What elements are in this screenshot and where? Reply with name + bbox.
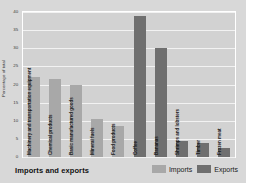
legend-label: Imports (169, 166, 192, 173)
bar-category-label: Mineral fuels (90, 128, 95, 155)
y-tick-label: 30 (13, 46, 18, 50)
legend-swatch (152, 165, 166, 173)
y-tick-label: 0 (16, 155, 18, 159)
chart-legend: ImportsExports (152, 165, 238, 173)
legend-label: Exports (214, 166, 238, 173)
bar-slot: Bananas (150, 12, 171, 157)
bar-category-label: Machinery and transportation equipment (27, 68, 32, 155)
bar-category-label: Food products (111, 123, 116, 155)
chart-figure: Percentage of total 0510152025303540 Mac… (0, 0, 256, 183)
bar-slot: Shrimps and lobsters (171, 12, 192, 157)
bar-slot: Basic manufactured goods (65, 12, 86, 157)
plot-area: Machinery and transportation equipmentCh… (22, 11, 236, 158)
y-tick-label: 15 (13, 100, 18, 104)
bar-slot: Timber (193, 12, 214, 157)
bar-slot: Frozen meat (214, 12, 235, 157)
y-tick-label: 5 (16, 137, 18, 141)
bar-slot: Machinery and transportation equipment (23, 12, 44, 157)
bar-category-label: Frozen meat (217, 128, 222, 155)
bar-slot: Food products (108, 12, 129, 157)
bar-category-label: Bananas (154, 136, 159, 155)
chart-title: Imports and exports (15, 166, 89, 175)
gridline (23, 157, 235, 158)
bar-category-label: Timber (196, 140, 201, 155)
bar-slot: Chemical products (44, 12, 65, 157)
y-tick-label: 25 (13, 64, 18, 68)
y-tick-label: 35 (13, 28, 18, 32)
y-tick-label: 10 (13, 119, 18, 123)
bar-category-label: Basic manufactured goods (69, 97, 74, 155)
legend-item: Imports (152, 165, 192, 173)
bar-category-label: Chemical products (48, 114, 53, 155)
y-tick-label: 20 (13, 82, 18, 86)
bar-category-label: Coffee (133, 141, 138, 155)
y-tick-label: 40 (13, 10, 18, 14)
bar-slot: Mineral fuels (87, 12, 108, 157)
bar-slot: Coffee (129, 12, 150, 157)
y-axis-ticks: 0510152025303540 (0, 11, 21, 158)
page-margin (246, 0, 256, 183)
legend-item: Exports (197, 165, 238, 173)
legend-swatch (197, 165, 211, 173)
bar-category-label: Shrimps and lobsters (175, 109, 180, 155)
bar-group: Machinery and transportation equipmentCh… (23, 12, 235, 157)
bar (134, 16, 146, 157)
chart-footer: Imports and exports ImportsExports (0, 160, 246, 183)
